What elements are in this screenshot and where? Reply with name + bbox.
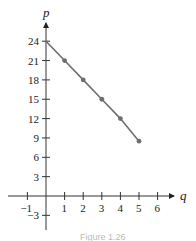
y-tick-label: −3 [27,209,39,221]
figure-caption: Figure 1.26 [80,232,126,241]
chart: −1123456 −33691215182124 q p Figure 1.26 [0,0,196,241]
y-tick-label: 3 [34,171,40,183]
y-axis-label: p [42,5,50,20]
x-tick-label: 2 [80,202,86,214]
y-tick-label: 12 [28,113,39,125]
y-tick-label: 24 [28,35,40,47]
y-tick-label: 21 [28,55,39,67]
data-point [81,78,86,83]
data-point [62,58,67,63]
data-point [99,97,104,102]
data-point [118,116,123,121]
y-tick-label: 6 [34,151,40,163]
x-tick-label: 6 [155,202,161,214]
y-tick-label: 18 [28,74,40,86]
x-ticks: −1123456 [20,192,160,214]
y-tick-label: 15 [28,93,40,105]
series-line [46,41,139,141]
x-tick-label: 4 [117,202,123,214]
y-ticks: −33691215182124 [27,35,50,221]
data-point [137,139,142,144]
x-tick-label: 5 [136,202,142,214]
y-tick-label: 9 [34,132,40,144]
x-tick-label: 1 [62,202,68,214]
data-series [46,41,141,143]
x-tick-label: 3 [99,202,105,214]
x-axis-label: q [180,188,187,203]
